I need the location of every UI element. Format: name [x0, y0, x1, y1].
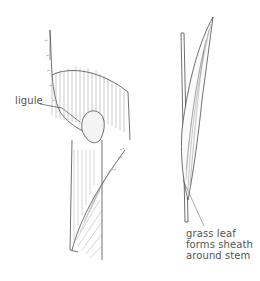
ligule-label: ligule	[15, 95, 43, 106]
ligule-detail-drawing	[40, 30, 130, 260]
sheath-label-line-2: forms sheath	[186, 239, 260, 250]
sheath-label: grass leaf forms sheath around stem	[186, 228, 260, 261]
leaf-sheath-drawing	[181, 17, 213, 226]
sheath-label-line-1: grass leaf	[186, 228, 260, 239]
sheath-label-line-3: around stem	[186, 250, 260, 261]
